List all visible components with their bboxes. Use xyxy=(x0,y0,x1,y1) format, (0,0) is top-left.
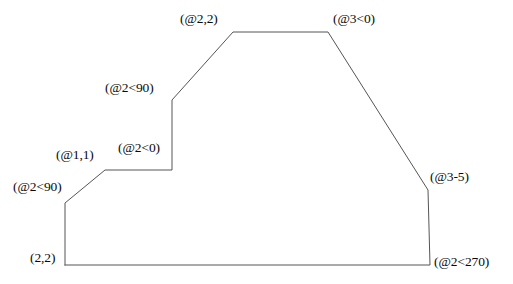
vertex-label-relative-1-1: (@1,1) xyxy=(56,148,94,162)
vertex-label-relative-2-2: (@2,2) xyxy=(180,12,218,26)
vertex-label-polar-2-90-lower: (@2<90) xyxy=(13,180,62,194)
vertex-label-relative-3-minus-5: (@3-5) xyxy=(430,170,469,184)
polyline-outline-svg xyxy=(0,0,513,284)
vertex-label-polar-3-0: (@3<0) xyxy=(333,12,375,26)
vertex-label-polar-2-90-upper: (@2<90) xyxy=(105,81,154,95)
vertex-label-polar-2-270: (@2<270) xyxy=(434,255,489,269)
diagram-canvas: (2,2) (@2<90) (@1,1) (@2<0) (@2<90) (@2,… xyxy=(0,0,513,284)
vertex-label-start-absolute: (2,2) xyxy=(30,251,55,265)
vertex-label-polar-2-0: (@2<0) xyxy=(118,141,160,155)
